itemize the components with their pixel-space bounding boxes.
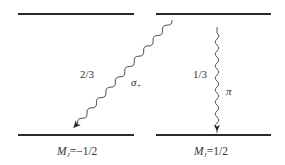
m-symbol: M	[57, 145, 67, 157]
sigma-plus-symbol: σ+	[131, 76, 141, 90]
m-value: =1/2	[207, 145, 228, 157]
sigma-subscript: +	[136, 82, 141, 90]
m-symbol: M	[194, 145, 204, 157]
pi-symbol: π	[226, 85, 232, 97]
lower-right-level-label: MJ=1/2	[194, 145, 228, 159]
m-value: =−1/2	[70, 145, 98, 157]
lower-left-level-label: MJ=−1/2	[57, 145, 97, 159]
pi-branching-ratio: 1/3	[193, 68, 207, 80]
sigma-branching-ratio: 2/3	[80, 68, 94, 80]
diagram-canvas	[0, 0, 285, 165]
pi-transition-arrow	[214, 27, 220, 133]
